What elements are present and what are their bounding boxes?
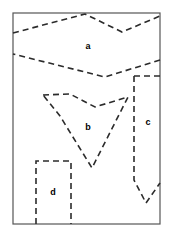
figure-root: a b c d: [0, 0, 173, 236]
region-label-d: d: [50, 187, 56, 197]
region-label-c: c: [145, 117, 150, 127]
region-partition-diagram: a b c d: [0, 0, 173, 236]
region-label-b: b: [85, 122, 91, 132]
